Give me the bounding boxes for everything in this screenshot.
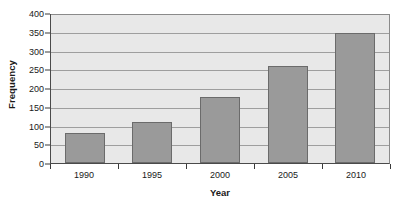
x-axis-title: Year	[50, 187, 390, 198]
x-axis-tick-mark	[186, 164, 187, 169]
x-axis-tick-mark	[390, 164, 391, 169]
x-axis-tick-mark	[254, 164, 255, 169]
y-axis-tick-label: 150	[29, 103, 44, 113]
bar[interactable]	[132, 122, 172, 163]
bar[interactable]	[268, 66, 308, 163]
y-axis-tick-label: 0	[39, 159, 44, 169]
y-axis-tick-label: 350	[29, 28, 44, 38]
y-axis-tick-label: 400	[29, 9, 44, 19]
y-axis-title-label: Frequency	[6, 60, 17, 109]
y-axis-tick-label: 50	[34, 140, 44, 150]
x-axis-tick-label: 1995	[118, 170, 186, 184]
y-axis-tick-label: 100	[29, 122, 44, 132]
x-axis-tick-label: 2000	[186, 170, 254, 184]
plot-area	[50, 14, 390, 164]
bar-slot	[51, 14, 119, 163]
x-axis-tick-label: 2005	[254, 170, 322, 184]
bar[interactable]	[335, 33, 375, 164]
bar[interactable]	[200, 97, 240, 163]
bar-chart: Frequency 400350300250200150100500 19901…	[0, 0, 401, 210]
bar-slot	[119, 14, 187, 163]
y-axis-tick-label: 250	[29, 65, 44, 75]
x-axis-tick-marks	[50, 164, 390, 169]
y-axis-tick-labels: 400350300250200150100500	[18, 14, 44, 164]
bar-slot	[321, 14, 389, 163]
x-axis-tick-labels: 19901995200020052010	[50, 170, 390, 184]
x-axis-tick-label: 2010	[322, 170, 390, 184]
x-axis-tick-mark	[50, 164, 51, 169]
x-axis-tick-mark	[322, 164, 323, 169]
bar[interactable]	[65, 133, 105, 163]
x-axis-tick-label: 1990	[50, 170, 118, 184]
bar-slot	[254, 14, 322, 163]
y-axis-tick-label: 300	[29, 47, 44, 57]
bar-slot	[186, 14, 254, 163]
bars-container	[51, 14, 389, 163]
y-axis-tick-label: 200	[29, 84, 44, 94]
x-axis-tick-mark	[118, 164, 119, 169]
